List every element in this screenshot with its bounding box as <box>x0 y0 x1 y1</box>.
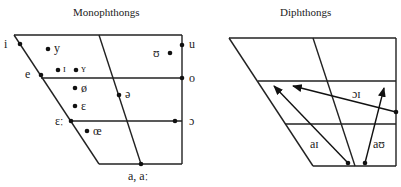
diphthong-oi-label: ɔɪ <box>352 88 361 100</box>
diphthong-ai-label: aɪ <box>310 138 319 150</box>
vowel-oe: œ <box>93 125 102 137</box>
vowel-i: i <box>4 38 7 50</box>
diphthong-au-label: aʊ <box>373 138 385 150</box>
vowel-schwa: ə <box>125 88 130 100</box>
vowel-near-close-rounded: ʏ <box>81 64 86 74</box>
vowel-u: u <box>189 38 195 50</box>
vowel-open-o: ɔ <box>189 115 194 127</box>
vowel-o-slash: ø <box>81 82 87 94</box>
vowel-near-close-front: ɪ <box>63 64 66 74</box>
vowel-epsilon-long: ɛː <box>55 115 63 127</box>
vowel-upsilon: ʊ <box>153 47 160 59</box>
vowel-y: y <box>54 42 60 54</box>
monophthong-dots <box>18 42 185 167</box>
vowel-o: o <box>189 72 195 84</box>
vowel-epsilon: ɛ <box>81 100 86 112</box>
vowel-a: a, aː <box>128 170 148 182</box>
vowel-e: e <box>25 68 30 80</box>
vowel-charts <box>0 0 401 187</box>
